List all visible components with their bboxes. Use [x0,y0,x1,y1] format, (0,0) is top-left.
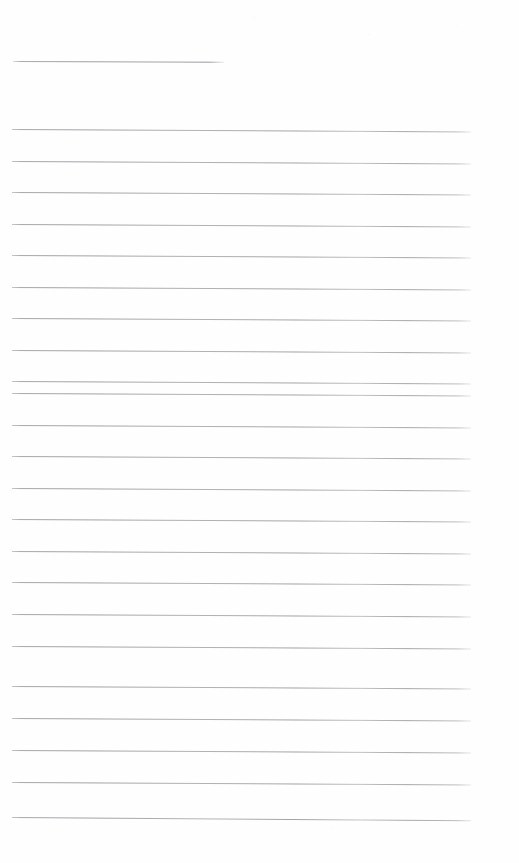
ruled-line [12,393,471,396]
rule-ink [12,192,471,195]
ruled-line [12,224,471,227]
rule-ink [12,456,471,459]
rule-ink [12,161,471,164]
ruled-line [12,350,471,353]
rule-ink [12,488,471,491]
rule-ink [13,61,224,63]
rule-ink [12,255,471,258]
rule-ink [12,381,471,384]
rule-ink [12,224,471,227]
ruled-line [12,686,471,689]
ruled-line [12,192,471,195]
ruled-line [12,614,471,617]
ruled-line [12,750,471,753]
ruled-line [12,287,471,290]
rule-ink [12,350,471,353]
rule-ink [12,519,471,522]
rule-ink [12,686,471,689]
ruled-line [12,817,471,821]
rule-ink [12,129,471,132]
ruled-line [12,318,471,321]
rule-ink [12,817,471,821]
ruled-line [12,381,471,384]
rule-ink [12,551,471,554]
rule-ink [12,582,471,585]
ruled-line [12,551,471,554]
ruled-line [12,488,471,491]
rule-ink [12,614,471,617]
rule-ink [12,646,471,649]
ruled-line [12,782,471,785]
ruled-line [12,161,471,164]
title-underline-rule [13,61,224,63]
rule-ink [12,750,471,753]
rule-ink [12,425,471,428]
ruled-line [12,718,471,721]
ruled-line [12,129,471,132]
ruled-line [12,425,471,428]
rule-ink [12,782,471,785]
rule-ink [12,393,471,396]
rule-ink [12,718,471,721]
ruled-line [12,519,471,522]
rule-ink [12,318,471,321]
ruled-line [12,456,471,459]
ruled-line [12,646,471,649]
ruled-line [12,255,471,258]
ruled-line [12,582,471,585]
scanned-page [0,0,519,863]
rule-ink [12,287,471,290]
